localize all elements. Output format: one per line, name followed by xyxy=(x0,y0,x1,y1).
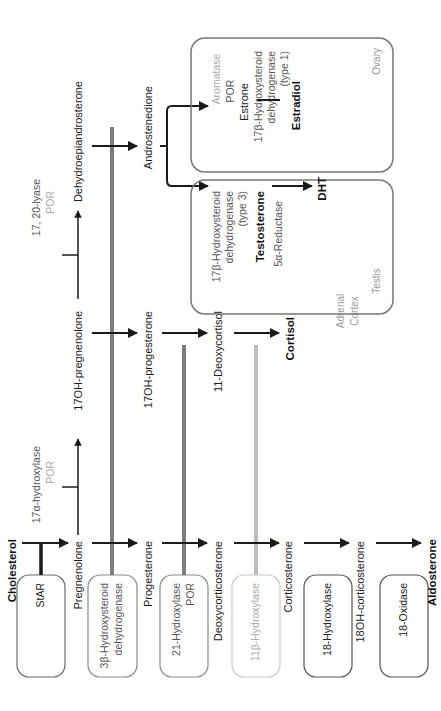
branch-connector xyxy=(167,106,182,186)
metabolite-17oh-pregnenolone: 17OH-pregnenolone xyxy=(72,311,84,411)
enzyme-17b-hsd3: (type 3) xyxy=(236,191,248,227)
enzyme-box-11b-hydroxylase: 11β-Hydroxylase xyxy=(232,575,280,677)
metabolite-estrone: Estrone xyxy=(238,83,250,121)
enzyme-box-3b-hsd: 3β-Hydroxysteroid dehydrogenase xyxy=(88,575,137,677)
enzyme-label: dehydrogenase xyxy=(112,583,124,656)
adrenal-cortex-label: Adrenal xyxy=(335,294,346,328)
enzyme-label: StAR xyxy=(34,583,46,608)
metabolite-cortisol: Cortisol xyxy=(284,317,296,360)
metabolite-11-deoxycortisol: 11-Deoxycortisol xyxy=(212,311,224,392)
ovary-box: Aromatase POR Estrone 17β-Hydroxysteroid… xyxy=(191,38,393,172)
metabolite-deoxycorticosterone: Deoxycorticosterone xyxy=(212,541,224,641)
enzyme-label: 18-Oxidase xyxy=(397,583,409,637)
enzyme-label: 21-Hydroxylase xyxy=(170,583,182,656)
enzyme-17b-hsd3: dehydrogenase xyxy=(223,191,235,264)
enzyme-label: 3β-Hydroxysteroid xyxy=(98,583,110,669)
enzyme-17b-hsd3: 17β-Hydroxysteroid xyxy=(210,191,222,282)
adrenal-cortex-label: Cortex xyxy=(349,296,360,325)
diagram-stage: StAR 3β-Hydroxysteroid dehydrogenase 21-… xyxy=(0,0,441,711)
enzyme-label: 18-Hydroxylase xyxy=(321,583,333,656)
metabolite-17oh-progesterone: 17OH-progesterone xyxy=(142,311,154,408)
metabolite-androstenedione: Androstenedione xyxy=(142,86,154,169)
metabolite-cholesterol: Cholesterol xyxy=(6,539,18,602)
metabolite-aldosterone: Aldosterone xyxy=(426,539,438,606)
enzyme-aromatase: Aromatase xyxy=(210,53,222,104)
metabolite-dht: DHT xyxy=(316,177,328,201)
enzyme-5a-reductase: 5α-Reductase xyxy=(272,201,284,267)
enzyme-17b-hsd1: (type 1) xyxy=(278,51,290,87)
steroidogenesis-diagram: StAR 3β-Hydroxysteroid dehydrogenase 21-… xyxy=(0,0,441,711)
enzyme-label: POR xyxy=(184,583,196,606)
metabolite-testosterone: Testosterone xyxy=(254,191,266,262)
metabolite-dhea: Dehydroepiandrosterone xyxy=(72,81,84,202)
enzyme-box-18-hydroxylase: 18-Hydroxylase xyxy=(304,575,352,677)
enzyme-por: POR xyxy=(224,79,236,102)
enzyme-box-21-hydroxylase: 21-Hydroxylase POR xyxy=(160,575,208,677)
metabolite-18oh-corticosterone: 18OH-corticosterone xyxy=(354,541,366,643)
enzyme-box-star: StAR xyxy=(17,575,65,677)
metabolite-pregnenolone: Pregnenolone xyxy=(72,541,84,610)
enzyme-17-20-lyase: 17, 20-lyase xyxy=(30,179,42,236)
metabolite-estradiol: Estradiol xyxy=(290,81,302,130)
enzyme-17b-hsd1: dehydrogenase xyxy=(265,51,277,124)
metabolite-corticosterone: Corticosterone xyxy=(282,541,294,613)
metabolite-progesterone: Progesterone xyxy=(142,541,154,607)
enzyme-por: POR xyxy=(44,461,56,484)
enzyme-label: 11β-Hydroxylase xyxy=(249,583,261,661)
enzyme-por: POR xyxy=(44,191,56,214)
enzyme-box-18-oxidase: 18-Oxidase xyxy=(380,575,428,677)
testis-label: Testis xyxy=(371,268,382,294)
ovary-label: Ovary xyxy=(371,48,382,75)
testis-box: 17β-Hydroxysteroid dehydrogenase (type 3… xyxy=(191,177,393,314)
enzyme-17a-hydroxylase: 17α-hydroxylase xyxy=(30,446,42,523)
enzyme-17b-hsd1: 17β-Hydroxysteroid xyxy=(252,51,264,142)
